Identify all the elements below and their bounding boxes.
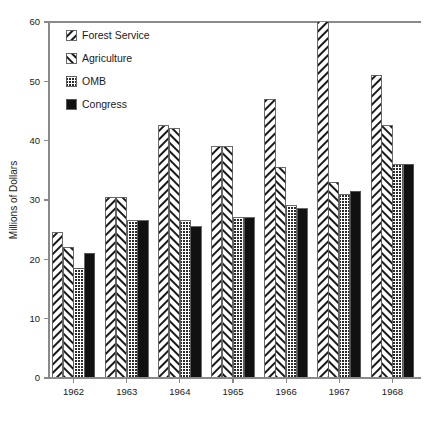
y-tick-label: 10 xyxy=(29,313,40,324)
bar-forest-service-1962 xyxy=(52,233,62,378)
bar-forest-service-1965 xyxy=(212,147,222,378)
bar-agriculture-1962 xyxy=(63,247,73,378)
x-tick-label: 1968 xyxy=(382,386,403,397)
bar-forest-service-1964 xyxy=(159,126,169,378)
bar-omb-1968 xyxy=(393,164,403,378)
bar-forest-service-1963 xyxy=(105,197,115,378)
bar-congress-1968 xyxy=(404,164,414,378)
y-tick-label: 40 xyxy=(29,135,40,146)
y-tick-label: 0 xyxy=(35,372,40,383)
legend-swatch-agriculture xyxy=(66,53,76,63)
bar-agriculture-1965 xyxy=(223,147,233,378)
bar-omb-1963 xyxy=(127,221,137,378)
bar-omb-1967 xyxy=(340,194,350,378)
bar-agriculture-1967 xyxy=(329,182,339,378)
legend-label-omb: OMB xyxy=(82,75,106,87)
bar-agriculture-1966 xyxy=(276,167,286,378)
bar-omb-1965 xyxy=(233,218,243,378)
bar-congress-1963 xyxy=(138,221,148,378)
y-tick-label: 20 xyxy=(29,254,40,265)
bar-congress-1966 xyxy=(297,209,307,378)
legend-label-congress: Congress xyxy=(82,98,127,110)
x-tick-label: 1965 xyxy=(222,386,243,397)
y-tick-label: 60 xyxy=(29,16,40,27)
bar-chart-figure: 0102030405060 Millions of Dollars 196219… xyxy=(0,0,424,424)
y-tick-label: 50 xyxy=(29,76,40,87)
bar-congress-1964 xyxy=(191,227,201,378)
bar-forest-service-1966 xyxy=(265,99,275,378)
bar-agriculture-1963 xyxy=(116,197,126,378)
legend-swatch-omb xyxy=(66,76,76,86)
chart-canvas: 0102030405060 Millions of Dollars 196219… xyxy=(0,0,424,424)
bar-congress-1965 xyxy=(244,218,254,378)
legend-label-forest-service: Forest Service xyxy=(82,29,150,41)
bar-omb-1962 xyxy=(74,268,84,378)
bar-congress-1967 xyxy=(350,191,360,378)
y-tick-label: 30 xyxy=(29,194,40,205)
x-tick-label: 1967 xyxy=(329,386,350,397)
legend-swatch-forest-service xyxy=(66,30,76,40)
y-axis-title: Millions of Dollars xyxy=(8,161,19,239)
x-tick-label: 1966 xyxy=(276,386,297,397)
x-tick-label: 1962 xyxy=(63,386,84,397)
bar-omb-1966 xyxy=(286,206,296,378)
bar-forest-service-1967 xyxy=(318,19,328,378)
bar-forest-service-1968 xyxy=(371,75,381,378)
bar-agriculture-1968 xyxy=(382,126,392,378)
x-tick-label: 1964 xyxy=(169,386,190,397)
legend-swatch-congress xyxy=(66,99,76,109)
legend-label-agriculture: Agriculture xyxy=(82,52,132,64)
y-axis-title-label: Millions of Dollars xyxy=(8,161,19,239)
bar-omb-1964 xyxy=(180,221,190,378)
bar-congress-1962 xyxy=(85,253,95,378)
bar-agriculture-1964 xyxy=(169,129,179,378)
x-tick-label: 1963 xyxy=(116,386,137,397)
